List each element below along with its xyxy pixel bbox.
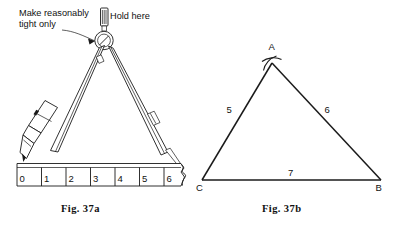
vertex-label-b: B — [376, 182, 382, 193]
triangle-side-ab — [272, 63, 381, 180]
panel-fig-37a: Make reasonably tight only Hold here — [17, 8, 186, 214]
leader-arrow — [62, 30, 95, 45]
tightness-note-line1: Make reasonably — [19, 8, 89, 18]
compass-right-leg — [109, 46, 181, 165]
pencil — [20, 101, 58, 163]
hold-note-text: Hold here — [110, 11, 150, 21]
vertex-label-c: C — [196, 182, 203, 193]
figure-canvas: Make reasonably tight only Hold here — [0, 0, 401, 228]
ruler-mark-1: 1 — [44, 173, 49, 184]
ruler-mark-0: 0 — [20, 173, 25, 184]
ruler: 0 1 2 3 4 5 6 — [17, 164, 186, 187]
side-length-ca: 5 — [227, 104, 232, 115]
figure-root: Make reasonably tight only Hold here — [0, 0, 401, 228]
side-length-cb: 7 — [288, 167, 293, 178]
ruler-mark-2: 2 — [69, 173, 74, 184]
knurled-handle-icon — [101, 8, 109, 31]
triangle-side-ca — [202, 63, 272, 180]
caption-fig-37b: Fig. 37b — [262, 203, 301, 214]
panel-fig-37b: A B C 5 6 7 Fig. 37b — [196, 41, 382, 214]
compass-left-leg — [51, 46, 105, 153]
ruler-mark-3: 3 — [93, 173, 98, 184]
caption-fig-37a: Fig. 37a — [61, 203, 100, 214]
ruler-mark-6: 6 — [167, 173, 172, 184]
ruler-mark-5: 5 — [142, 173, 147, 184]
vertex-label-a: A — [269, 41, 276, 52]
tightness-note-line2: tight only — [19, 19, 56, 29]
side-length-ab: 6 — [325, 104, 330, 115]
ruler-mark-4: 4 — [118, 173, 123, 184]
